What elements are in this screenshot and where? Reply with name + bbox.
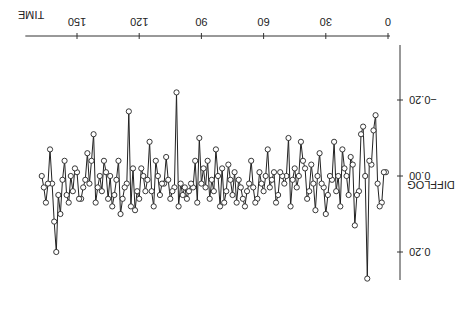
data-point xyxy=(263,173,268,178)
data-point xyxy=(348,154,353,159)
data-point xyxy=(157,192,162,197)
data-point xyxy=(251,185,256,190)
data-point xyxy=(153,158,158,163)
data-point xyxy=(52,219,57,224)
data-point xyxy=(238,185,243,190)
data-point xyxy=(64,192,69,197)
data-point xyxy=(319,181,324,186)
data-point xyxy=(377,204,382,209)
data-point xyxy=(201,166,206,171)
data-point xyxy=(76,196,81,201)
data-point xyxy=(323,211,328,216)
data-point xyxy=(83,177,88,182)
data-point xyxy=(298,139,303,144)
data-point xyxy=(363,173,368,178)
data-point xyxy=(56,192,61,197)
data-point xyxy=(261,189,266,194)
data-point xyxy=(43,200,48,205)
data-point xyxy=(240,196,245,201)
data-point xyxy=(112,192,117,197)
data-point xyxy=(336,173,341,178)
data-point xyxy=(228,177,233,182)
data-point xyxy=(68,173,73,178)
data-point xyxy=(213,147,218,152)
data-point xyxy=(302,166,307,171)
data-point xyxy=(99,189,104,194)
data-point xyxy=(242,204,247,209)
data-point xyxy=(294,185,299,190)
data-point xyxy=(130,166,135,171)
data-point xyxy=(315,173,320,178)
data-point xyxy=(361,124,366,129)
data-point xyxy=(350,162,355,167)
data-point xyxy=(81,185,86,190)
data-point xyxy=(203,185,208,190)
data-point xyxy=(224,189,229,194)
data-point xyxy=(259,181,264,186)
data-point xyxy=(145,177,150,182)
data-point xyxy=(132,208,137,213)
x-tick-label: 0 xyxy=(385,16,391,28)
data-point xyxy=(174,90,179,95)
data-point xyxy=(137,196,142,201)
data-point xyxy=(114,177,119,182)
data-point xyxy=(118,211,123,216)
data-point xyxy=(296,173,301,178)
data-point xyxy=(338,204,343,209)
data-point xyxy=(66,200,71,205)
data-point xyxy=(232,170,237,175)
data-point xyxy=(95,185,100,190)
data-point xyxy=(62,158,67,163)
data-point xyxy=(305,196,310,201)
x-tick-label: 90 xyxy=(195,16,207,28)
y-tick-label: 0.20 xyxy=(409,246,430,258)
x-tick-label: 30 xyxy=(320,16,332,28)
data-point xyxy=(367,158,372,163)
data-point xyxy=(375,181,380,186)
data-point xyxy=(217,204,222,209)
data-point xyxy=(70,189,75,194)
data-point xyxy=(222,200,227,205)
data-point xyxy=(271,170,276,175)
y-axis-ticks: −0.200.000.20 xyxy=(397,94,437,258)
x-tick-label: 150 xyxy=(68,16,86,28)
data-point xyxy=(101,158,106,163)
data-point xyxy=(116,158,121,163)
data-point xyxy=(205,158,210,163)
data-point xyxy=(72,166,77,171)
data-point xyxy=(85,151,90,156)
data-point xyxy=(309,162,314,167)
data-point xyxy=(126,109,131,114)
data-point xyxy=(282,181,287,186)
data-point xyxy=(170,189,175,194)
data-point xyxy=(47,147,52,152)
data-point xyxy=(188,181,193,186)
data-point xyxy=(300,158,305,163)
x-tick-label: 60 xyxy=(257,16,269,28)
data-point xyxy=(334,189,339,194)
data-point xyxy=(340,147,345,152)
data-point xyxy=(186,189,191,194)
data-point xyxy=(325,192,330,197)
data-point xyxy=(128,204,133,209)
data-point xyxy=(365,276,370,281)
data-point xyxy=(371,128,376,133)
data-point xyxy=(234,200,239,205)
data-point xyxy=(246,181,251,186)
data-point xyxy=(267,185,272,190)
data-point xyxy=(93,200,98,205)
data-point xyxy=(352,223,357,228)
data-point xyxy=(166,177,171,182)
data-point xyxy=(230,192,235,197)
data-point xyxy=(327,173,332,178)
data-point xyxy=(168,196,173,201)
data-point xyxy=(176,204,181,209)
data-point xyxy=(54,249,59,254)
x-axis-label: TIME xyxy=(18,9,44,21)
data-point xyxy=(39,173,44,178)
data-point xyxy=(193,158,198,163)
data-point xyxy=(273,200,278,205)
data-point xyxy=(87,181,92,186)
data-point xyxy=(110,204,115,209)
data-point xyxy=(184,196,189,201)
